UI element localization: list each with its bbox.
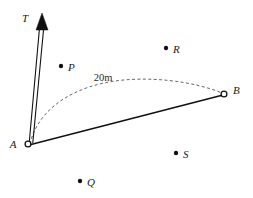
label-B: B xyxy=(233,84,240,96)
label-A: A xyxy=(9,138,17,150)
point-P-dot xyxy=(59,64,63,68)
label-R: R xyxy=(172,43,180,55)
arc-distance-label: 20m xyxy=(94,72,113,83)
node-A xyxy=(25,141,31,147)
arc-a-to-b xyxy=(30,79,222,144)
label-T: T xyxy=(22,12,29,24)
label-S: S xyxy=(183,148,189,160)
label-Q: Q xyxy=(87,176,95,188)
point-Q-dot xyxy=(78,179,82,183)
arrow-head-icon xyxy=(36,13,48,30)
point-S-dot xyxy=(174,151,178,155)
figure-canvas: T A B 20m P Q R S xyxy=(0,0,253,198)
point-R-dot xyxy=(164,46,168,50)
label-P: P xyxy=(67,61,75,73)
diagram-svg: T A B 20m P Q R S xyxy=(0,0,253,198)
node-B xyxy=(221,91,227,97)
